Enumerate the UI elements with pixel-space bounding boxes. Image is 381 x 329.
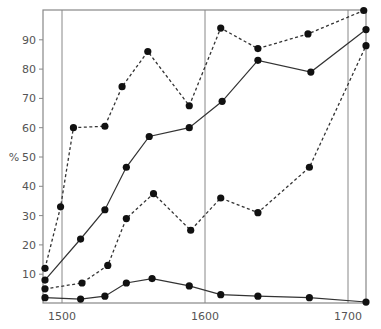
data-point-marker [307, 68, 314, 75]
data-point-marker [104, 262, 111, 269]
data-point-marker [101, 123, 108, 130]
data-point-marker [77, 296, 84, 303]
data-point-marker [186, 102, 193, 109]
data-point-marker [306, 164, 313, 171]
data-point-marker [41, 276, 48, 283]
data-point-marker [254, 209, 261, 216]
x-tick-label-1700: 1700 [334, 310, 362, 323]
data-point-marker [304, 30, 311, 37]
data-point-marker [362, 42, 369, 49]
y-tick-label-70: 70 [22, 92, 36, 105]
data-point-marker [362, 26, 369, 33]
vertical-reference-lines [62, 10, 348, 303]
data-point-marker [254, 57, 261, 64]
data-point-marker [217, 291, 224, 298]
x-tick-label-1600: 1600 [191, 310, 219, 323]
y-tick-label-50: 50 [22, 151, 36, 164]
data-point-marker [186, 124, 193, 131]
y-tick-label-90: 90 [22, 34, 36, 47]
y-tick-label-60: 60 [22, 122, 36, 135]
data-point-marker [101, 206, 108, 213]
data-point-marker [254, 293, 261, 300]
data-point-marker [77, 235, 84, 242]
data-point-marker [123, 164, 130, 171]
y-tick-label-40: 40 [22, 180, 36, 193]
data-point-marker [118, 83, 125, 90]
data-point-marker [187, 227, 194, 234]
data-point-marker [219, 98, 226, 105]
y-axis-title: % [9, 151, 19, 164]
data-point-marker [57, 203, 64, 210]
data-point-marker [41, 285, 48, 292]
y-tick-label-80: 80 [22, 63, 36, 76]
data-point-marker [41, 265, 48, 272]
line-chart: 102030405060708090 150016001700 % [0, 0, 381, 329]
x-axis: 150016001700 [48, 310, 362, 323]
data-point-marker [306, 294, 313, 301]
data-point-marker [41, 294, 48, 301]
x-tick-label-1500: 1500 [48, 310, 76, 323]
y-tick-label-20: 20 [22, 239, 36, 252]
data-point-marker [362, 298, 369, 305]
data-point-marker [254, 45, 261, 52]
data-point-marker [123, 215, 130, 222]
data-point-marker [146, 133, 153, 140]
data-point-marker [217, 24, 224, 31]
data-point-marker [144, 48, 151, 55]
y-tick-label-10: 10 [22, 268, 36, 281]
data-point-marker [148, 275, 155, 282]
series-line [45, 11, 364, 269]
y-axis: 102030405060708090 [22, 34, 43, 281]
data-point-marker [150, 190, 157, 197]
data-point-marker [101, 293, 108, 300]
y-tick-label-30: 30 [22, 210, 36, 223]
data-point-marker [217, 194, 224, 201]
data-point-marker [78, 279, 85, 286]
series-upper-dotted [41, 7, 367, 272]
data-point-marker [360, 7, 367, 14]
data-point-marker [123, 279, 130, 286]
data-point-marker [186, 282, 193, 289]
data-point-marker [70, 124, 77, 131]
